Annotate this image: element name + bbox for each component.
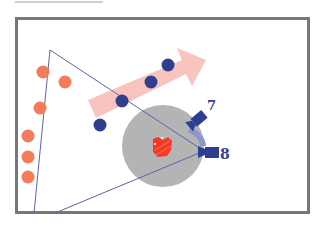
blue-player-dot <box>116 95 129 108</box>
orange-player-dot <box>37 66 50 79</box>
orange-player-dot <box>59 76 72 89</box>
blue-player-dot <box>145 76 158 89</box>
blue-player-dot <box>94 119 107 132</box>
surveillance-field-diagram: 7 8 <box>0 0 322 227</box>
camera-8-icon <box>198 146 219 158</box>
camera-8-label: 8 <box>220 146 230 162</box>
orange-player-dot <box>34 102 47 115</box>
blue-player-dot <box>162 59 175 72</box>
orange-player-dot <box>22 151 35 164</box>
camera-7-label: 7 <box>207 98 216 113</box>
orange-player-dot <box>22 130 35 143</box>
orange-player-dot <box>22 171 35 184</box>
